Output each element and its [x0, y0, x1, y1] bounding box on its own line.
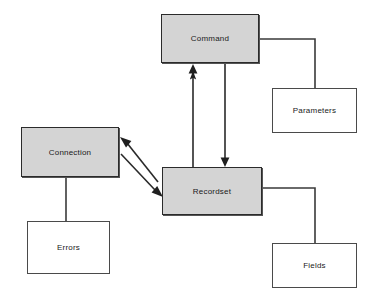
node-errors-label: Errors — [57, 243, 80, 252]
arrowhead-up-to-command — [189, 64, 198, 74]
object-model-diagram: Command Parameters Connection Recordset … — [0, 0, 371, 304]
node-errors[interactable]: Errors — [27, 221, 110, 274]
arrowhead-down-to-recordset — [221, 158, 230, 168]
node-connection-label: Connection — [49, 148, 91, 157]
node-recordset[interactable]: Recordset — [162, 167, 262, 215]
edge-recordset-fields — [262, 188, 315, 244]
node-fields[interactable]: Fields — [272, 243, 357, 288]
node-connection[interactable]: Connection — [21, 127, 119, 177]
node-parameters-label: Parameters — [293, 106, 336, 115]
node-recordset-label: Recordset — [193, 187, 231, 196]
node-parameters[interactable]: Parameters — [272, 88, 357, 133]
node-command-label: Command — [191, 34, 229, 43]
node-fields-label: Fields — [303, 261, 326, 270]
node-command[interactable]: Command — [161, 14, 259, 63]
edge-command-parameters — [259, 39, 315, 89]
